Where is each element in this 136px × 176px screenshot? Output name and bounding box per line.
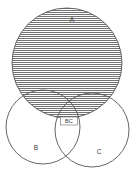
set-a-hatch-fill bbox=[12, 8, 122, 118]
set-c-label: C bbox=[97, 148, 102, 155]
venn-diagram-canvas: BC A B C bbox=[0, 0, 136, 176]
venn-diagram-svg: BC A B C bbox=[0, 0, 136, 176]
set-a-hatch-group bbox=[12, 8, 122, 118]
set-a-label: A bbox=[70, 16, 75, 23]
set-b-label: B bbox=[34, 144, 38, 151]
region-bc-label: BC bbox=[65, 118, 73, 124]
